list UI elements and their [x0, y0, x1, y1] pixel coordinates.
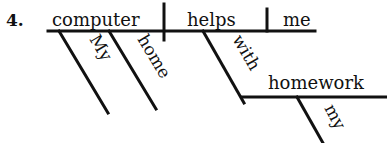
prepositional-object-word: homework: [268, 72, 365, 93]
subject-word: computer: [52, 9, 140, 30]
sentence-diagram: 4. computer helps me My home with homewo…: [0, 0, 387, 143]
direct-object-word: me: [283, 9, 311, 30]
item-number: 4.: [6, 10, 24, 30]
modifier-line-my-object: [297, 97, 323, 143]
object-modifier-word: my: [320, 100, 350, 132]
preposition-word: with: [229, 31, 265, 74]
modifier-word-home: home: [134, 31, 176, 82]
verb-word: helps: [187, 9, 236, 30]
